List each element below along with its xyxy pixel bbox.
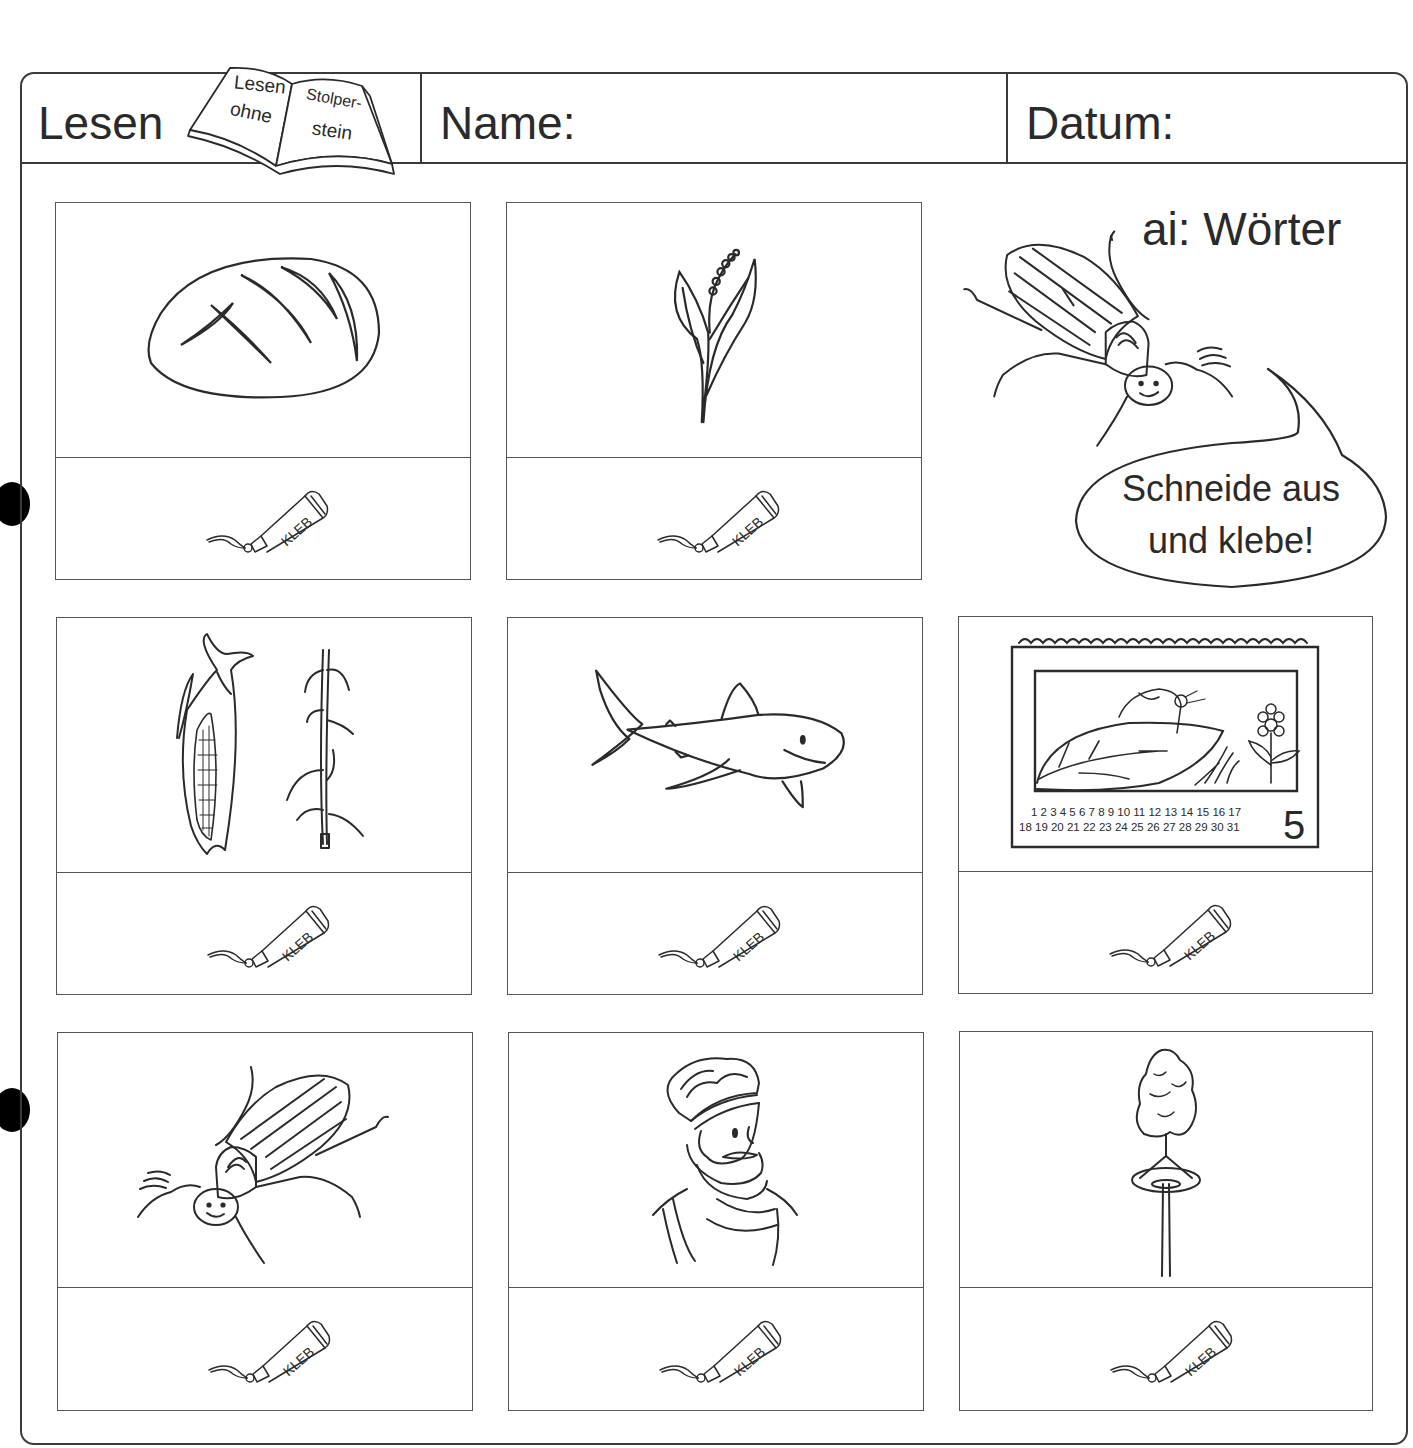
header-divider-date — [1006, 72, 1008, 164]
picture-area: 1 2 3 4 5 6 7 8 9 10 11 12 13 14 15 16 1… — [959, 617, 1372, 874]
shark-icon — [574, 658, 860, 818]
card-bread[interactable]: KLEB — [55, 202, 471, 580]
open-book-icon — [186, 62, 398, 180]
card-may-beetle[interactable]: KLEB — [57, 1032, 473, 1411]
corn-icon — [157, 630, 377, 860]
card-corn[interactable]: KLEB — [56, 617, 472, 995]
svg-text:KLEB: KLEB — [730, 928, 767, 964]
svg-text:KLEB: KLEB — [731, 1343, 768, 1379]
glue-area[interactable]: KLEB — [57, 872, 471, 994]
glue-tube-icon: KLEB — [653, 889, 783, 979]
glue-tube-icon: KLEB — [203, 1304, 333, 1394]
glue-area[interactable]: KLEB — [960, 1287, 1372, 1410]
glue-area[interactable]: KLEB — [509, 1287, 923, 1410]
svg-text:KLEB: KLEB — [278, 513, 315, 549]
glue-tube-icon: KLEB — [654, 1304, 784, 1394]
lily-of-the-valley-icon — [657, 225, 777, 445]
instruction-line-1: Schneide aus — [1078, 464, 1384, 514]
picture-area — [507, 203, 921, 460]
svg-text:KLEB: KLEB — [280, 1343, 317, 1379]
picture-area — [509, 1033, 923, 1290]
card-may-calendar[interactable]: 1 2 3 4 5 6 7 8 9 10 11 12 13 14 15 16 1… — [958, 616, 1373, 994]
book-logo: Lesen ohne Stolper- stein — [186, 62, 398, 180]
svg-text:KLEB: KLEB — [729, 513, 766, 549]
name-label: Name: — [440, 100, 575, 146]
header-divider-name — [420, 72, 422, 164]
glue-tube-icon: KLEB — [1105, 1304, 1235, 1394]
glue-tube-icon: KLEB — [1104, 888, 1234, 978]
svg-text:KLEB: KLEB — [1181, 927, 1218, 963]
svg-text:KLEB: KLEB — [279, 928, 316, 964]
glue-area[interactable]: KLEB — [58, 1287, 472, 1410]
may-beetle-icon — [136, 1057, 396, 1267]
glue-area[interactable]: KLEB — [959, 871, 1372, 993]
calendar-days-row-2: 18 19 20 21 22 23 24 25 26 27 28 29 30 3… — [1019, 820, 1240, 835]
picture-area — [56, 203, 470, 460]
svg-text:KLEB: KLEB — [1182, 1343, 1219, 1379]
calendar-month-number: 5 — [1283, 803, 1305, 848]
picture-area — [508, 618, 922, 875]
maypole-icon — [1100, 1044, 1240, 1280]
glue-area[interactable]: KLEB — [507, 457, 921, 579]
card-emperor[interactable]: KLEB — [508, 1032, 924, 1411]
card-shark[interactable]: KLEB — [507, 617, 923, 995]
picture-area — [57, 618, 471, 875]
edge-copyright-strip — [0, 400, 8, 1440]
glue-tube-icon: KLEB — [652, 474, 782, 564]
glue-area[interactable]: KLEB — [56, 457, 470, 579]
glue-tube-icon: KLEB — [202, 889, 332, 979]
card-maypole[interactable]: KLEB — [959, 1031, 1373, 1411]
emperor-icon — [637, 1049, 807, 1269]
card-lily-of-the-valley[interactable]: KLEB — [506, 202, 922, 580]
calendar-days-row-1: 1 2 3 4 5 6 7 8 9 10 11 12 13 14 15 16 1… — [1031, 805, 1241, 820]
glue-tube-icon: KLEB — [201, 474, 331, 564]
instruction-line-2: und klebe! — [1078, 516, 1384, 566]
glue-area[interactable]: KLEB — [508, 872, 922, 994]
picture-area — [58, 1033, 472, 1290]
series-title: Lesen — [38, 100, 163, 146]
date-label: Datum: — [1026, 100, 1174, 146]
picture-area — [960, 1032, 1372, 1290]
bread-icon — [141, 253, 386, 403]
